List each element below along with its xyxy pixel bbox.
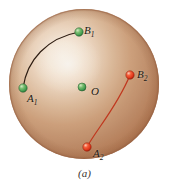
point-marker-o [78, 83, 86, 91]
point-label-o: O [91, 86, 99, 97]
point-marker-a1 [19, 84, 27, 92]
point-label-b2-text: B [137, 68, 144, 80]
point-label-a2-sub: 2 [100, 153, 104, 162]
sphere-geodesic-figure: B1 A1 O B2 A2 (a) [0, 0, 169, 188]
point-label-a2-text: A [93, 147, 100, 159]
point-label-a2: A2 [93, 148, 103, 162]
point-marker-b1 [75, 28, 83, 36]
point-label-o-text: O [91, 85, 99, 97]
point-label-b2: B2 [137, 69, 147, 83]
point-label-b2-sub: 2 [144, 74, 148, 83]
point-label-b1-text: B [84, 24, 91, 36]
point-label-b1-sub: 1 [91, 30, 95, 39]
point-label-b1: B1 [84, 25, 94, 39]
point-marker-a2 [83, 143, 91, 151]
point-marker-b2 [126, 71, 134, 79]
point-label-a1-sub: 1 [34, 98, 38, 107]
point-label-a1: A1 [27, 93, 37, 107]
figure-caption: (a) [0, 168, 169, 179]
point-label-a1-text: A [27, 92, 34, 104]
